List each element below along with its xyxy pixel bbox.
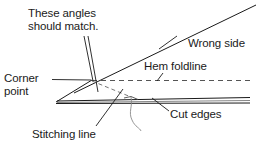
- stitching-line-leader: [96, 89, 123, 126]
- hem-foldline-leader: [157, 73, 163, 81]
- stitching-triangle-upper-edge: [56, 80, 92, 102]
- cut-edges-leader: [152, 98, 169, 111]
- label-these-angles-should-match: These angles should match.: [28, 7, 98, 33]
- cut-edge-line-bottom: [56, 103, 250, 104]
- label-corner-point: Corner point: [4, 72, 39, 98]
- corner-point-leader: [52, 80, 91, 81]
- label-cut-edges: Cut edges: [170, 108, 222, 121]
- label-stitching-line: Stitching line: [32, 128, 96, 141]
- label-hem-foldline: Hem foldline: [144, 60, 207, 73]
- label-wrong-side: Wrong side: [188, 37, 245, 50]
- hem-corner-diagram: These angles should match. Wrong side He…: [0, 0, 265, 153]
